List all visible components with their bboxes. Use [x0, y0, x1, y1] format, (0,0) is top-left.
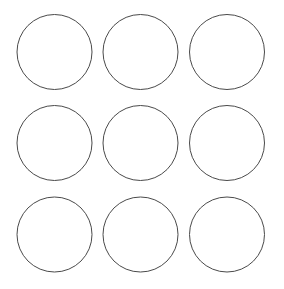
- canvas-root: [0, 0, 284, 289]
- circle-grid: [0, 0, 284, 289]
- canvas-background: [0, 0, 284, 289]
